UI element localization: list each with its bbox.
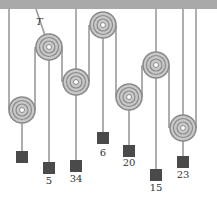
pulley-axle [20,108,25,113]
mass-block [16,151,28,163]
pulley-axle [127,95,132,100]
mass-block [70,160,82,172]
pulley [9,97,35,123]
pulley [143,52,169,78]
mass-label: 34 [70,173,83,184]
mass-label: 23 [177,169,190,180]
mass-label: 6 [100,147,106,158]
pulley-axle [181,126,186,131]
mass-label: 20 [123,157,136,168]
pulley [170,115,196,141]
mass-label: 5 [46,175,52,186]
pulley-axle [101,23,106,28]
mass-block [150,169,162,181]
pulley-diagram: 5346201523 T [0,0,217,199]
pulley-axle [47,45,52,50]
mass-label: 15 [150,182,163,193]
pulley [63,69,89,95]
mass-block [43,162,55,174]
mass-block [97,132,109,144]
ceiling [0,0,217,9]
pulley [116,84,142,110]
masses: 5346201523 [16,132,189,193]
pulley [90,12,116,38]
mass-block [177,156,189,168]
mass-block [123,145,135,157]
pulley [36,34,62,60]
pulley-axle [154,63,159,68]
pulley-axle [74,80,79,85]
tension-label: T [36,16,44,27]
